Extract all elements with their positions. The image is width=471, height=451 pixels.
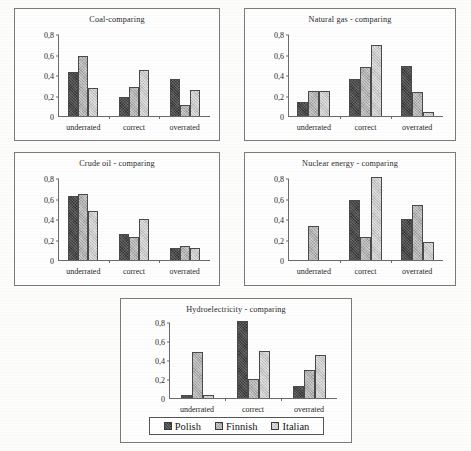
bar-group — [68, 34, 98, 116]
x-axis-tick-mark — [340, 116, 341, 119]
y-axis-tick-mark — [286, 55, 289, 56]
x-axis-category-label: underrated — [58, 123, 109, 132]
bar-finnish — [248, 379, 259, 398]
bar-finnish — [308, 91, 319, 116]
plot-area: 00,20,40,60,8underratedcorrectoverrated — [288, 35, 443, 117]
bar-polish — [293, 386, 304, 398]
bar-polish — [401, 219, 412, 260]
bar-group — [119, 178, 149, 260]
x-axis-category-label: underrated — [288, 267, 340, 276]
bar-finnish — [360, 67, 371, 116]
bar-italian — [423, 112, 434, 116]
y-axis-tick-label: 0 — [280, 113, 288, 122]
chart-panel-crude-oil: Crude oil - comparing 00,20,40,60,8under… — [14, 152, 220, 286]
x-axis-tick-mark — [109, 260, 110, 263]
bar-group — [401, 178, 434, 260]
x-axis-category-label: underrated — [169, 405, 225, 414]
y-axis-tick-mark — [56, 35, 59, 36]
x-axis-category-label: overrated — [281, 405, 337, 414]
bar-italian — [423, 242, 434, 260]
bar-polish — [349, 79, 360, 116]
bar-finnish — [308, 226, 319, 260]
x-axis — [58, 116, 210, 117]
legend-swatch-finnish-icon — [215, 422, 223, 430]
x-axis-tick-mark — [159, 116, 160, 119]
legend: Polish Finnish Italian — [149, 417, 324, 435]
bar-group — [297, 178, 330, 260]
y-axis-tick-mark — [286, 220, 289, 221]
x-axis-category-label: overrated — [159, 123, 210, 132]
bar-italian — [139, 70, 149, 116]
bar-finnish — [192, 352, 203, 398]
bar-group — [349, 178, 382, 260]
bar-finnish — [412, 205, 423, 260]
x-axis — [169, 398, 337, 399]
legend-item: Polish — [164, 421, 201, 432]
bar-finnish — [78, 56, 88, 116]
y-axis-tick-mark — [56, 55, 59, 56]
x-axis-tick-mark — [159, 260, 160, 263]
bar-italian — [371, 177, 382, 260]
y-axis-tick-mark — [286, 199, 289, 200]
y-axis-tick-mark — [286, 76, 289, 77]
bar-italian — [88, 88, 98, 116]
bar-italian — [319, 91, 330, 116]
bar-group — [170, 178, 200, 260]
bar-group — [68, 178, 98, 260]
x-axis-category-label: overrated — [391, 267, 443, 276]
y-axis-tick-mark — [167, 342, 170, 343]
chart-title: Hydroelectricity - comparing — [121, 305, 351, 314]
x-axis — [58, 260, 210, 261]
bar-group — [297, 34, 330, 116]
bar-group — [237, 322, 270, 398]
x-axis-category-label: underrated — [58, 267, 109, 276]
legend-swatch-italian-icon — [271, 422, 279, 430]
y-axis-tick-mark — [286, 240, 289, 241]
chart-panel-nuclear-energy: Nuclear energy - comparing 00,20,40,60,8… — [244, 152, 456, 286]
y-axis-tick-mark — [286, 179, 289, 180]
bar-finnish — [304, 370, 315, 399]
chart-title: Crude oil - comparing — [15, 159, 219, 168]
x-axis-category-label: correct — [340, 123, 392, 132]
plot-area: 00,20,40,60,8underratedcorrectoverrated — [58, 179, 210, 261]
bar-italian — [88, 211, 98, 260]
y-axis-tick-label: 0 — [50, 257, 58, 266]
bar-polish — [170, 248, 180, 260]
x-axis-category-label: correct — [109, 123, 160, 132]
y-axis-tick-mark — [56, 179, 59, 180]
bar-group — [401, 34, 434, 116]
bar-italian — [371, 45, 382, 116]
bar-group — [349, 34, 382, 116]
bar-polish — [68, 196, 78, 260]
bar-finnish — [129, 237, 139, 260]
x-axis-tick-mark — [391, 260, 392, 263]
bar-polish — [170, 79, 180, 116]
y-axis-tick-mark — [286, 96, 289, 97]
bar-polish — [297, 102, 308, 116]
x-axis-category-label: overrated — [391, 123, 443, 132]
x-axis-tick-mark — [281, 398, 282, 401]
y-axis-tick-mark — [56, 199, 59, 200]
chart-panel-coal: Coal-comparing 00,20,40,60,8underratedco… — [14, 8, 220, 141]
legend-label: Polish — [175, 421, 201, 432]
bar-italian — [190, 248, 200, 260]
legend-item: Finnish — [215, 421, 258, 432]
bar-finnish — [360, 237, 371, 260]
y-axis-tick-mark — [56, 240, 59, 241]
bar-polish — [181, 395, 192, 398]
x-axis-tick-mark — [391, 116, 392, 119]
y-axis-tick-mark — [56, 96, 59, 97]
plot-area: 00,20,40,60,8underratedcorrectoverrated — [288, 179, 443, 261]
y-axis-tick-label: 0 — [280, 257, 288, 266]
y-axis-tick-label: 0 — [161, 395, 169, 404]
y-axis-tick-mark — [167, 380, 170, 381]
bar-italian — [315, 355, 326, 398]
bar-group — [181, 322, 214, 398]
figure-sheet: Coal-comparing 00,20,40,60,8underratedco… — [0, 0, 471, 451]
plot-area: 00,20,40,60,8underratedcorrectoverrated — [169, 323, 337, 399]
bar-polish — [119, 97, 129, 116]
y-axis-tick-mark — [286, 35, 289, 36]
x-axis-category-label: overrated — [159, 267, 210, 276]
chart-title: Coal-comparing — [15, 15, 219, 24]
x-axis-tick-mark — [225, 398, 226, 401]
